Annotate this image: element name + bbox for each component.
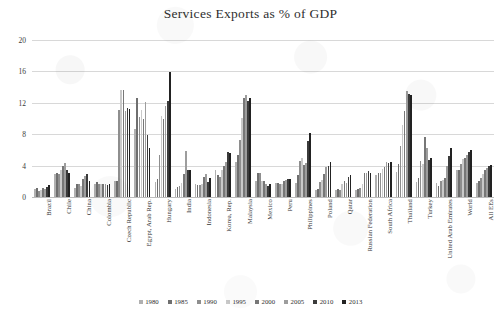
x-axis-category-label: China: [85, 199, 92, 215]
x-axis-category-label: United Arab Emirates: [446, 199, 453, 259]
x-axis-category-label: Indonesia: [205, 199, 212, 226]
bar: [269, 184, 271, 197]
bar: [450, 148, 452, 197]
bar-group: [114, 40, 130, 197]
legend-item[interactable]: 2000: [255, 299, 275, 306]
legend-swatch: [284, 300, 288, 304]
bar-group: [215, 40, 231, 197]
legend-swatch: [342, 300, 346, 304]
x-axis-category-label: Brazil: [45, 199, 52, 216]
bar-group: [456, 40, 472, 197]
legend-item[interactable]: 2013: [342, 299, 362, 306]
x-axis-category-label: Qatar: [346, 199, 353, 214]
bar-group: [275, 40, 291, 197]
bar: [390, 162, 392, 197]
bar: [229, 153, 231, 197]
legend-item[interactable]: 2010: [313, 299, 333, 306]
bar-group: [255, 40, 271, 197]
bar: [249, 98, 251, 197]
legend-label: 1980: [145, 299, 159, 306]
bar-group: [175, 40, 191, 197]
bar: [169, 72, 171, 197]
legend-swatch: [313, 300, 317, 304]
bar: [48, 185, 50, 197]
x-axis-category-label: Czech Republic: [125, 199, 132, 242]
legend-swatch: [139, 300, 143, 304]
y-axis-tick-label: 16: [4, 67, 26, 76]
x-axis-category-label: Russian Federation: [366, 199, 373, 252]
bar-group: [355, 40, 371, 197]
x-axis: BrazilChileChinaColombiaCzech RepublicEg…: [32, 199, 494, 275]
bar-group: [396, 40, 412, 197]
bar-group: [155, 40, 171, 197]
bar-group: [375, 40, 391, 197]
legend-swatch: [226, 300, 230, 304]
legend-label: 2013: [349, 299, 363, 306]
bar: [430, 158, 432, 197]
chart-legend: 19801985199019952000200520102013: [0, 299, 501, 306]
legend-item[interactable]: 1990: [197, 299, 217, 306]
bar-group: [195, 40, 211, 197]
chart-title: Services Exports as % of GDP: [0, 6, 501, 22]
bar-group: [436, 40, 452, 197]
bar-group: [54, 40, 70, 197]
legend-label: 2005: [291, 299, 305, 306]
legend-swatch: [197, 300, 201, 304]
y-axis-tick-label: 0: [4, 193, 26, 202]
legend-item[interactable]: 2005: [284, 299, 304, 306]
x-axis-category-label: Philippines: [306, 199, 313, 230]
bar: [490, 165, 492, 197]
y-axis-tick-label: 20: [4, 36, 26, 45]
x-axis-category-label: Malaysia: [246, 199, 253, 224]
bar-group: [94, 40, 110, 197]
x-axis-baseline: [32, 197, 494, 198]
bar: [470, 150, 472, 197]
bar: [370, 173, 372, 197]
bar: [209, 178, 211, 197]
legend-swatch: [255, 300, 259, 304]
bar-group: [295, 40, 311, 197]
chart-container: Services Exports as % of GDP 048121620 B…: [0, 0, 501, 317]
bar-group: [335, 40, 351, 197]
x-axis-category-label: Thailand: [406, 199, 413, 223]
legend-label: 1995: [232, 299, 246, 306]
legend-label: 2000: [262, 299, 276, 306]
x-axis-category-label: Poland: [326, 199, 333, 218]
x-axis-category-label: Chile: [65, 199, 72, 214]
bar: [89, 181, 91, 197]
legend-label: 1985: [174, 299, 188, 306]
x-axis-category-label: Hungary: [165, 199, 172, 223]
bar: [68, 173, 70, 197]
x-axis-category-label: Mexico: [266, 199, 273, 220]
legend-item[interactable]: 1980: [139, 299, 159, 306]
y-axis: 048121620: [0, 40, 30, 197]
bar-group: [416, 40, 432, 197]
bar: [309, 133, 311, 197]
y-axis-tick-label: 12: [4, 99, 26, 108]
bar: [410, 95, 412, 197]
bar: [189, 170, 191, 197]
legend-label: 1990: [203, 299, 217, 306]
bar: [350, 175, 352, 197]
x-axis-category-label: All EEs: [487, 199, 494, 220]
legend-item[interactable]: 1985: [168, 299, 188, 306]
bar: [149, 148, 151, 197]
y-axis-tick-label: 8: [4, 130, 26, 139]
x-axis-category-label: Turkey: [426, 199, 433, 218]
bars-layer: [32, 40, 494, 197]
legend-label: 2010: [320, 299, 334, 306]
plot-area: [32, 40, 494, 197]
bar: [330, 162, 332, 197]
x-axis-category-label: Korea, Rep.: [225, 199, 232, 232]
y-axis-tick-label: 4: [4, 162, 26, 171]
bar-group: [74, 40, 90, 197]
bar-group: [134, 40, 150, 197]
bar-group: [235, 40, 251, 197]
x-axis-category-label: World: [466, 199, 473, 216]
x-axis-category-label: India: [185, 199, 192, 213]
legend-item[interactable]: 1995: [226, 299, 246, 306]
bar: [289, 179, 291, 197]
x-axis-category-label: Peru: [286, 199, 293, 212]
x-axis-category-label: Colombia: [105, 199, 112, 226]
x-axis-category-label: Egypt, Arab Rep.: [145, 199, 152, 246]
